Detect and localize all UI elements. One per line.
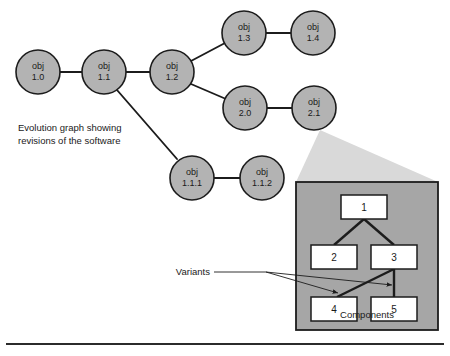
obj-1-2-label-line1: obj: [166, 61, 178, 71]
zoom-cone-shape: [296, 130, 438, 182]
obj-2-0-label-line1: obj: [239, 97, 251, 107]
graph-node-obj-1-1-1: obj1.1.1: [170, 156, 214, 200]
components-panel-caption: Components: [340, 309, 394, 320]
component-2-label: 2: [331, 252, 337, 263]
obj-2-0-label-line2: 2.0: [239, 108, 252, 118]
component-2: 2: [311, 245, 357, 269]
edge-1-2-to-2-0: [191, 84, 226, 99]
caption-line-2: revisions of the software: [18, 135, 120, 146]
obj-1-1-1-label-line1: obj: [186, 167, 198, 177]
obj-1-1-label-line1: obj: [98, 61, 110, 71]
obj-1-1-1-label-line2: 1.1.1: [182, 178, 202, 188]
variants-label: Variants: [176, 266, 210, 277]
component-3: 3: [371, 245, 417, 269]
component-1: 1: [341, 195, 387, 219]
components-detail-panel: 12345Components: [296, 182, 438, 330]
graph-node-obj-1-4: obj1.4: [291, 11, 335, 55]
obj-2-1-label-line2: 2.1: [308, 108, 321, 118]
graph-node-obj-2-0: obj2.0: [223, 86, 267, 130]
graph-node-obj-1-3: obj1.3: [222, 11, 266, 55]
obj-1-1-label-line2: 1.1: [98, 72, 111, 82]
obj-1-4-label-line1: obj: [307, 22, 319, 32]
component-3-label: 3: [391, 252, 397, 263]
figure-canvas: obj1.0obj1.1obj1.2obj1.3obj1.4obj2.0obj2…: [0, 0, 450, 356]
obj-1-0-label-line1: obj: [32, 61, 44, 71]
obj-1-3-label-line1: obj: [238, 22, 250, 32]
obj-1-4-label-line2: 1.4: [307, 33, 320, 43]
component-1-label: 1: [361, 202, 367, 213]
caption-line-1: Evolution graph showing: [18, 122, 122, 133]
evolution-graph-caption: Evolution graph showing revisions of the…: [18, 122, 122, 146]
obj-1-1-2-label-line1: obj: [256, 167, 268, 177]
edge-1-2-to-1-3: [191, 43, 225, 61]
evolution-graph-nodes: obj1.0obj1.1obj1.2obj1.3obj1.4obj2.0obj2…: [16, 11, 336, 200]
graph-node-obj-2-1: obj2.1: [292, 86, 336, 130]
component-4-label: 4: [331, 304, 337, 315]
edge-1-1-to-1-1-1: [117, 90, 177, 159]
evolution-diagram: obj1.0obj1.1obj1.2obj1.3obj1.4obj2.0obj2…: [0, 0, 450, 356]
graph-node-obj-1-2: obj1.2: [150, 50, 194, 94]
graph-node-obj-1-1: obj1.1: [82, 50, 126, 94]
obj-1-3-label-line2: 1.3: [238, 33, 251, 43]
obj-2-1-label-line1: obj: [308, 97, 320, 107]
obj-1-1-2-label-line2: 1.1.2: [252, 178, 272, 188]
graph-node-obj-1-0: obj1.0: [16, 50, 60, 94]
obj-1-0-label-line2: 1.0: [32, 72, 45, 82]
obj-1-2-label-line2: 1.2: [166, 72, 179, 82]
graph-node-obj-1-1-2: obj1.1.2: [240, 156, 284, 200]
zoom-cone: [296, 130, 438, 182]
